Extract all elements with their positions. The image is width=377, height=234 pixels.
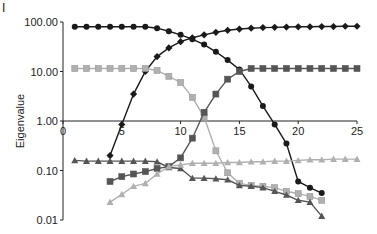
- square-marker: [319, 197, 325, 203]
- panel-label: I: [2, 1, 5, 15]
- square-marker: [330, 65, 336, 71]
- y-tick-label: 0.01: [37, 214, 58, 226]
- circle-marker: [72, 24, 78, 30]
- square-marker: [119, 174, 125, 180]
- square-marker: [307, 193, 313, 199]
- diamond-marker: [130, 90, 137, 97]
- circle-marker: [283, 141, 289, 147]
- diamond-marker: [306, 23, 313, 30]
- square-marker: [131, 65, 137, 71]
- square-marker: [107, 178, 113, 184]
- circle-marker: [95, 24, 101, 30]
- square-marker: [319, 65, 325, 71]
- circle-marker: [260, 103, 266, 109]
- x-axis: 0510152025: [60, 121, 363, 137]
- y-axis-title: Eigenvalue: [14, 94, 26, 148]
- circle-marker: [213, 49, 219, 55]
- circle-marker: [154, 25, 160, 31]
- circle-marker: [319, 190, 325, 196]
- y-tick-label: 0.10: [37, 165, 58, 177]
- square-marker: [84, 65, 90, 71]
- diamond-marker: [177, 38, 184, 45]
- square-marker: [260, 65, 266, 71]
- circle-marker: [307, 185, 313, 191]
- diamond-marker: [295, 23, 302, 30]
- square-marker: [189, 135, 195, 141]
- square-marker: [142, 169, 148, 175]
- square-marker: [178, 155, 184, 161]
- x-tick-label: 20: [292, 125, 304, 137]
- circle-marker: [225, 57, 231, 63]
- circle-marker: [84, 24, 90, 30]
- y-tick-label: 10.00: [30, 66, 58, 78]
- circle-marker: [119, 24, 125, 30]
- series-black-circle: [72, 24, 325, 196]
- square-marker: [295, 65, 301, 71]
- square-marker: [354, 65, 360, 71]
- diamond-marker: [236, 25, 243, 32]
- x-tick-label: 25: [351, 125, 363, 137]
- square-marker: [119, 65, 125, 71]
- series-dark-triangle: [71, 157, 325, 219]
- square-marker: [131, 171, 137, 177]
- square-marker: [95, 65, 101, 71]
- diamond-marker: [342, 23, 349, 30]
- diamond-marker: [259, 24, 266, 31]
- circle-marker: [166, 28, 172, 34]
- circle-marker: [295, 178, 301, 184]
- circle-marker: [201, 42, 207, 48]
- square-marker: [248, 65, 254, 71]
- diamond-marker: [248, 25, 255, 32]
- square-marker: [166, 73, 172, 79]
- square-marker: [201, 109, 207, 115]
- y-tick-label: 1.00: [37, 115, 58, 127]
- x-tick-label: 0: [60, 125, 66, 137]
- diamond-marker: [318, 23, 325, 30]
- square-marker: [283, 65, 289, 71]
- square-marker: [154, 67, 160, 73]
- diamond-marker: [201, 31, 208, 38]
- square-marker: [272, 65, 278, 71]
- y-axis: 100.0010.001.000.100.01: [24, 16, 63, 226]
- square-marker: [107, 65, 113, 71]
- diamond-marker: [271, 24, 278, 31]
- square-marker: [342, 65, 348, 71]
- circle-marker: [248, 83, 254, 89]
- diamond-marker: [353, 23, 360, 30]
- eigenvalue-chart: I 100.0010.001.000.100.01 0510152025 Eig…: [0, 0, 377, 234]
- square-marker: [142, 65, 148, 71]
- series-black-diamond: [106, 23, 360, 160]
- circle-marker: [131, 24, 137, 30]
- square-marker: [189, 94, 195, 100]
- diamond-marker: [283, 23, 290, 30]
- triangle-marker: [118, 191, 125, 197]
- square-marker: [225, 76, 231, 82]
- y-tick-label: 100.00: [24, 16, 58, 28]
- square-marker: [178, 79, 184, 85]
- triangle-marker: [107, 199, 114, 205]
- circle-marker: [272, 121, 278, 127]
- square-marker: [225, 170, 231, 176]
- diamond-marker: [212, 29, 219, 36]
- square-marker: [236, 69, 242, 75]
- circle-marker: [107, 24, 113, 30]
- x-tick-label: 10: [174, 125, 186, 137]
- square-marker: [295, 191, 301, 197]
- diamond-marker: [330, 23, 337, 30]
- circle-marker: [142, 24, 148, 30]
- x-tick-label: 15: [233, 125, 245, 137]
- circle-marker: [178, 32, 184, 38]
- diamond-marker: [224, 27, 231, 34]
- square-marker: [213, 91, 219, 97]
- square-marker: [213, 148, 219, 154]
- square-marker: [72, 65, 78, 71]
- square-marker: [307, 65, 313, 71]
